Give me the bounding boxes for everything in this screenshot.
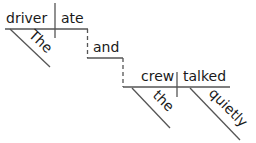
clause2-verb: talked: [183, 68, 226, 84]
clause1-verb: ate: [61, 10, 84, 26]
conjunction-word: and: [93, 39, 119, 55]
modifier-quietly: quietly: [206, 85, 251, 130]
clause2-subject: crew: [141, 68, 174, 84]
sentence-diagram: driver ate The and crew talked the quiet…: [0, 0, 256, 143]
modifier-the-upper: The: [25, 26, 56, 56]
clause1-subject: driver: [6, 10, 47, 26]
